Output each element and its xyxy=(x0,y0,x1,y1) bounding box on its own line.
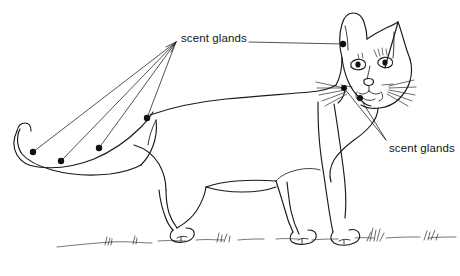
gland-marker-dot xyxy=(340,41,346,47)
gland-marker-dot xyxy=(341,85,347,91)
gland-marker-dot xyxy=(58,158,64,164)
head-leader-line xyxy=(249,42,343,44)
gland-marker-dot xyxy=(357,95,363,101)
grass-tufts xyxy=(105,228,438,245)
tail xyxy=(14,112,153,175)
face-leader-lines xyxy=(344,88,386,140)
scent-glands-label-tail: scent glands xyxy=(181,33,247,45)
gland-marker-dot xyxy=(30,149,36,155)
scent-glands-label-face: scent glands xyxy=(389,143,455,155)
scent-gland-diagram: scent glands scent glands xyxy=(0,0,460,276)
gland-marker-dot xyxy=(96,145,102,151)
ground-line xyxy=(57,237,456,247)
gland-marker-dot xyxy=(144,115,150,121)
body-outline xyxy=(134,58,360,245)
